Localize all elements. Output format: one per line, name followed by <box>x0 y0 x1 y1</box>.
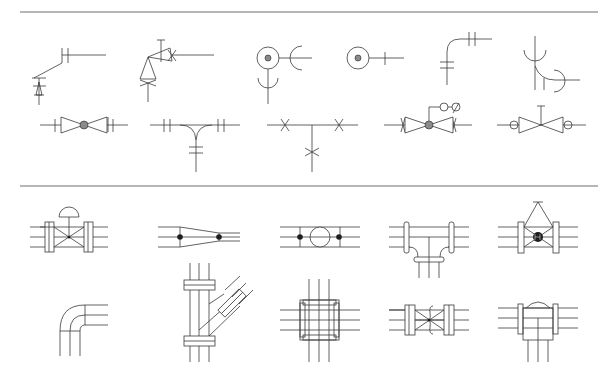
symbol-s10-motor-valve-icon <box>384 103 472 133</box>
symbol-d3-sight-glass-icon <box>280 227 360 247</box>
symbol-d6-elbow-90-icon <box>60 305 108 356</box>
piping-symbols-diagram: Piping symbols <box>0 0 615 380</box>
symbol-s1-elbow-valve-icon <box>32 48 106 105</box>
symbol-d7-lateral-y-icon <box>184 263 253 362</box>
symbol-s6-elbow-bell-spigot-icon <box>524 36 580 92</box>
symbol-s9-tee-welded-icon <box>267 119 358 172</box>
symbol-s3-elbow-bell-icon <box>257 46 312 104</box>
symbol-d10-tee-cap-icon <box>498 302 578 362</box>
section-single-line <box>32 32 586 172</box>
symbol-s8-tee-flanged-icon <box>150 119 240 172</box>
symbol-s4-elbow-down-icon <box>347 47 404 69</box>
symbol-s11-soldered-valve-icon <box>497 106 586 133</box>
symbol-s2-angle-valve-icon <box>140 40 214 102</box>
symbol-d5-ball-valve-icon <box>498 202 578 253</box>
symbol-s5-elbow-90-icon <box>440 32 492 85</box>
symbol-d9-butterfly-valve-icon <box>389 305 469 335</box>
symbol-d4-tee-flanged-icon <box>389 222 469 278</box>
symbol-s7-gate-valve-icon <box>40 117 128 133</box>
symbol-d2-reducer-icon <box>158 227 240 247</box>
symbol-d8-cross-icon <box>280 279 360 362</box>
section-double-line <box>30 202 578 362</box>
symbol-d1-diaphragm-valve-icon <box>30 207 108 252</box>
